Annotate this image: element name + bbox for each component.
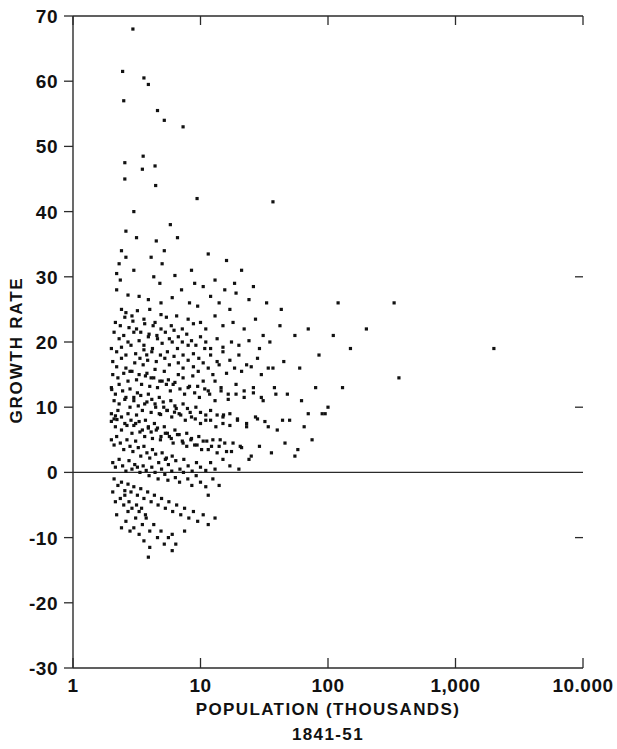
y-tick-label: 10 — [36, 397, 58, 418]
data-point — [124, 311, 127, 314]
data-point — [252, 391, 255, 394]
data-point — [176, 347, 179, 350]
data-point — [176, 236, 179, 239]
data-point — [150, 350, 153, 353]
data-point — [111, 461, 114, 464]
data-point — [137, 446, 140, 449]
data-point — [208, 393, 211, 396]
data-point — [161, 342, 164, 345]
data-point — [173, 428, 176, 431]
data-point — [211, 477, 214, 480]
data-point — [176, 433, 179, 436]
data-point — [298, 366, 301, 369]
data-point — [209, 295, 212, 298]
data-point — [209, 353, 212, 356]
data-point — [166, 479, 169, 482]
data-point — [138, 471, 141, 474]
data-point — [186, 407, 189, 410]
data-point — [321, 412, 324, 415]
data-point — [147, 298, 150, 301]
data-point — [233, 366, 236, 369]
data-point — [135, 327, 138, 330]
data-point — [132, 269, 135, 272]
data-point — [148, 308, 151, 311]
data-point — [194, 344, 197, 347]
data-point — [112, 399, 115, 402]
data-point — [146, 359, 149, 362]
data-point — [138, 420, 141, 423]
data-point — [278, 324, 281, 327]
data-point — [153, 321, 156, 324]
data-point — [151, 347, 154, 350]
data-point — [230, 340, 233, 343]
data-point — [125, 438, 128, 441]
data-point — [128, 387, 131, 390]
data-point — [211, 373, 214, 376]
data-point — [260, 373, 263, 376]
data-point — [168, 363, 171, 366]
data-point — [228, 464, 231, 467]
data-point — [142, 363, 145, 366]
y-tick-label: -10 — [29, 528, 58, 549]
data-point — [171, 533, 174, 536]
data-point — [216, 360, 219, 363]
data-point — [204, 419, 207, 422]
data-point — [225, 450, 228, 453]
data-point — [151, 437, 154, 440]
data-point — [223, 288, 226, 291]
y-tick-label: -30 — [29, 658, 58, 679]
data-point — [192, 352, 195, 355]
data-point — [172, 441, 175, 444]
data-point — [175, 407, 178, 410]
data-point — [157, 477, 160, 480]
data-point — [209, 409, 212, 412]
data-point — [282, 360, 285, 363]
data-point — [202, 380, 205, 383]
data-point — [129, 490, 132, 493]
data-point — [157, 503, 160, 506]
data-point — [190, 484, 193, 487]
data-point — [183, 393, 186, 396]
data-point — [115, 435, 118, 438]
data-point — [209, 347, 212, 350]
data-point — [204, 469, 207, 472]
data-point — [156, 536, 159, 539]
data-point — [171, 340, 174, 343]
data-point — [216, 451, 219, 454]
data-point — [138, 295, 141, 298]
data-point — [110, 412, 113, 415]
data-point — [231, 441, 234, 444]
data-point — [142, 348, 145, 351]
y-tick-label: 50 — [36, 136, 58, 157]
data-point — [222, 413, 225, 416]
data-point — [127, 326, 130, 329]
data-point — [115, 365, 118, 368]
data-point — [234, 393, 237, 396]
data-point — [144, 513, 147, 516]
data-point — [130, 468, 133, 471]
data-point — [174, 459, 177, 462]
data-point — [136, 494, 139, 497]
y-axis-ticks: -30-20-10010203040506070 — [29, 6, 583, 679]
data-point — [142, 76, 145, 79]
data-point — [207, 252, 210, 255]
data-point — [169, 389, 172, 392]
data-point — [150, 256, 153, 259]
data-point — [326, 406, 329, 409]
data-point — [150, 466, 153, 469]
data-point — [156, 337, 159, 340]
data-point — [245, 363, 248, 366]
data-point — [256, 417, 259, 420]
data-point — [197, 370, 200, 373]
data-point — [125, 424, 128, 427]
data-point — [207, 523, 210, 526]
data-point — [187, 464, 190, 467]
data-point — [137, 404, 140, 407]
data-point — [173, 411, 176, 414]
data-point — [254, 318, 257, 321]
data-point — [147, 556, 150, 559]
data-point — [195, 443, 198, 446]
data-point — [165, 383, 168, 386]
data-point — [144, 374, 147, 377]
data-point — [262, 399, 265, 402]
